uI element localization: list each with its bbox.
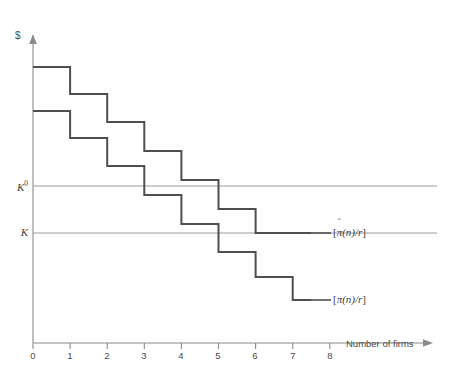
curve-label-pi-hat-pi: π [337, 226, 343, 238]
curve-label-pi-rest: (n)/r [342, 293, 362, 305]
hat-accent-icon: ˆ [338, 219, 341, 227]
curve-label-pi: [π(n)/r] [333, 293, 366, 305]
chart-figure: $ Number of firms 0 1 2 3 4 5 6 7 8 K0 K… [0, 0, 453, 372]
y-axis-label-k-base: K [21, 226, 28, 238]
y-axis-arrow [29, 34, 37, 44]
x-axis-arrow [423, 339, 433, 347]
y-axis-label-k: K [8, 226, 28, 238]
step-curve-pi [33, 111, 311, 300]
x-tick-label-7: 7 [283, 350, 303, 361]
x-axis-caption: Number of firms [346, 338, 414, 349]
chart-plot-area [0, 0, 453, 372]
x-tick-label-6: 6 [245, 350, 265, 361]
curve-label-pi-close: ] [362, 293, 366, 305]
y-axis [29, 34, 37, 343]
curve-label-pi-hat-symbol: πˆ [337, 226, 343, 238]
x-tick-marks [33, 343, 330, 349]
curve-label-pi-hat-close: ] [362, 226, 366, 238]
x-tick-label-4: 4 [171, 350, 191, 361]
y-axis-label-k-zero-sup: 0 [24, 179, 28, 188]
step-curve-pi-hat [33, 67, 311, 233]
y-axis-caption: $ [15, 30, 21, 41]
curve-label-pi-hat: [πˆ(n)/r] [333, 226, 366, 238]
x-tick-label-3: 3 [134, 350, 154, 361]
curve-label-pi-hat-rest: (n)/r [342, 226, 362, 238]
x-tick-label-1: 1 [60, 350, 80, 361]
x-tick-label-2: 2 [97, 350, 117, 361]
x-tick-label-0: 0 [23, 350, 43, 361]
x-tick-label-5: 5 [208, 350, 228, 361]
x-tick-label-8: 8 [320, 350, 340, 361]
y-axis-label-k-zero: K0 [8, 179, 28, 193]
